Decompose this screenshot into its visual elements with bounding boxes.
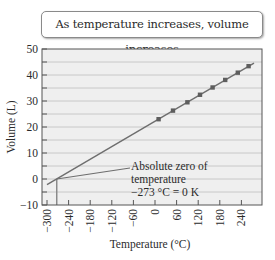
y-tick-label: 50	[27, 43, 39, 55]
x-axis-title: Temperature (°C)	[110, 238, 191, 251]
x-tick-label: −240	[63, 209, 75, 233]
y-tick-label: 30	[27, 95, 39, 107]
data-point	[246, 64, 250, 68]
data-point	[185, 100, 189, 104]
x-tick-label: 180	[214, 209, 226, 227]
data-point	[156, 117, 160, 121]
data-point	[210, 85, 214, 89]
x-tick-label: 0	[149, 209, 161, 215]
y-tick-label: 10	[27, 147, 39, 159]
x-tick-label: 120	[192, 209, 204, 227]
annotation-line-2: temperature	[131, 173, 186, 186]
y-tick-label: 0	[32, 173, 38, 185]
x-tick-label: −120	[106, 209, 118, 233]
x-tick-label: −60	[127, 209, 139, 227]
x-tick-label: 60	[171, 209, 183, 221]
x-tick-label: −180	[84, 209, 96, 233]
annotation-line-1: Absolute zero of	[131, 160, 208, 172]
x-tick-label: −300	[41, 209, 53, 233]
data-point	[223, 78, 227, 82]
annotation-line-3: −273 °C = 0 K	[131, 186, 200, 198]
y-tick-label: 20	[27, 121, 39, 133]
y-tick-label: 40	[27, 69, 39, 81]
data-point	[198, 93, 202, 97]
data-point	[171, 108, 175, 112]
y-axis-title: Volume (L)	[5, 100, 18, 153]
volume-temperature-chart: −1001020304050 −300−240−180−120−60060120…	[0, 0, 275, 260]
data-point	[236, 70, 240, 74]
x-tick-label: 240	[235, 209, 247, 227]
y-tick-label: −10	[20, 199, 38, 211]
